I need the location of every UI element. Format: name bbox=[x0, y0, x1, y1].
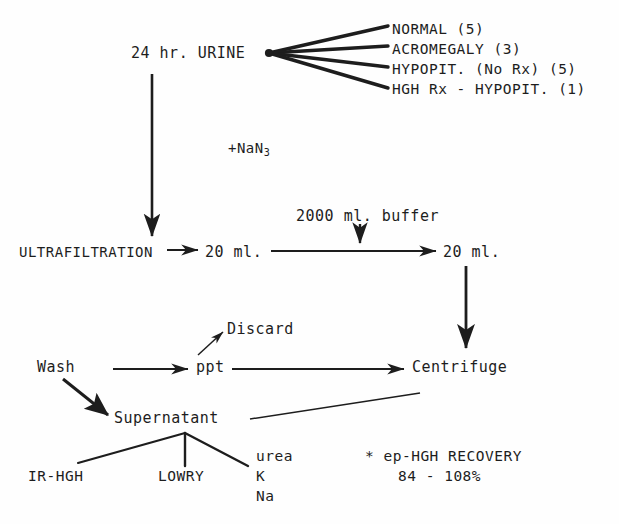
node-ultrafiltration: ULTRAFILTRATION bbox=[19, 244, 153, 260]
node-centrifuge: Centrifuge bbox=[412, 358, 507, 376]
node-supernatant: Supernatant bbox=[114, 409, 219, 427]
node-volume-b: 20 ml. bbox=[443, 243, 500, 261]
arrow-wash-to-supernatant bbox=[63, 379, 108, 415]
note-recovery-value: 84 - 108% bbox=[398, 468, 481, 484]
node-buffer: 2000 ml. buffer bbox=[296, 207, 439, 225]
supernatant-branch-lines bbox=[78, 433, 248, 466]
node-assay-irhgh: IR-HGH bbox=[28, 468, 83, 484]
node-assay-k: K bbox=[256, 468, 265, 484]
flowchart-connectors: 20 ml. (buffer exchange) --> Centrifuge … bbox=[0, 0, 619, 524]
preservative-formula: +NaN bbox=[228, 140, 264, 156]
line-supernatant-to-centrifuge bbox=[250, 393, 420, 419]
node-assay-na: Na bbox=[256, 488, 274, 504]
node-preservative: +NaN3 bbox=[228, 140, 270, 158]
urine-fanout-lines bbox=[265, 26, 388, 88]
node-wash: Wash bbox=[37, 358, 75, 376]
node-volume-a: 20 ml. bbox=[205, 243, 262, 261]
arrow-ppt-to-discard bbox=[198, 332, 223, 355]
group-label-acromegaly: ACROMEGALY (3) bbox=[392, 41, 521, 57]
note-recovery-title: * ep-HGH RECOVERY bbox=[365, 448, 522, 464]
group-label-hgh-rx-hypopit: HGH Rx - HYPOPIT. (1) bbox=[392, 81, 586, 97]
node-discard: Discard bbox=[227, 320, 294, 338]
group-label-normal: NORMAL (5) bbox=[392, 21, 484, 37]
node-urine: 24 hr. URINE bbox=[131, 44, 245, 62]
preservative-subscript: 3 bbox=[264, 147, 271, 158]
node-assay-urea: urea bbox=[256, 448, 293, 464]
flowchart-page: 20 ml. (buffer exchange) --> Centrifuge … bbox=[0, 0, 619, 524]
node-assay-lowry: LOWRY bbox=[158, 468, 204, 484]
node-ppt: ppt bbox=[196, 358, 225, 376]
group-label-hypopit: HYPOPIT. (No Rx) (5) bbox=[392, 61, 577, 77]
